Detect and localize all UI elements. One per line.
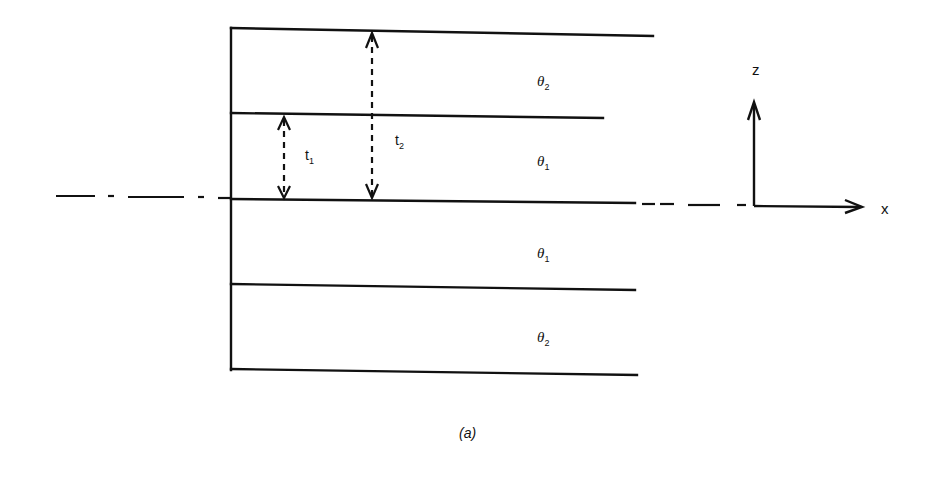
top-surface-line [231,28,653,36]
lower-interface-line [231,284,635,290]
midplane-line [231,199,635,203]
centerline-left [56,196,231,198]
x-axis-label: x [881,201,889,216]
layer-label-top-inner: θ1 [537,154,549,172]
layer-label-top-outer: θ2 [537,74,549,92]
layer-label-bottom-inner: θ1 [537,246,549,264]
laminate-diagram [0,0,934,483]
t2-label: t2 [395,133,404,151]
t1-dimension-arrow [278,117,290,198]
t1-label: t1 [305,148,314,166]
upper-interface-line [231,113,603,118]
bottom-surface-line [231,369,637,375]
coordinate-axes [748,102,862,213]
layer-label-bottom-outer: θ2 [537,330,549,348]
z-axis-label: z [752,62,760,77]
x-axis-line [754,206,860,207]
figure-caption: (a) [459,426,476,440]
centerline-right [642,204,746,205]
